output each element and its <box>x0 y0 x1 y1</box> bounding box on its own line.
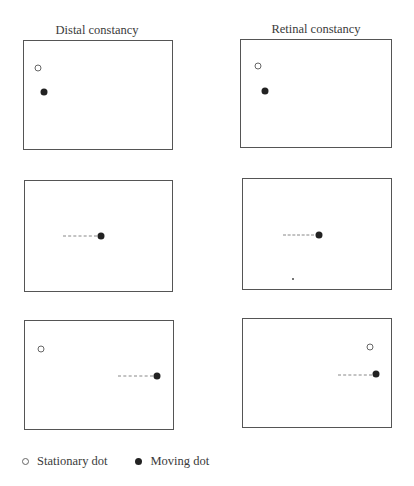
motion-trail <box>118 376 153 377</box>
moving-dot-icon <box>98 233 105 240</box>
legend-label-moving: Moving dot <box>150 454 209 469</box>
moving-dot-icon <box>154 373 161 380</box>
moving-dot-icon <box>135 458 142 465</box>
legend-item-moving: Moving dot <box>135 454 209 469</box>
motion-trail <box>283 235 314 236</box>
speck <box>292 278 294 280</box>
legend-label-stationary: Stationary dot <box>37 454 107 469</box>
moving-dot-icon <box>316 232 323 239</box>
motion-trail <box>338 375 372 376</box>
stationary-dot-icon <box>255 63 262 70</box>
moving-dot-icon <box>373 371 380 378</box>
stationary-dot-icon <box>367 344 374 351</box>
legend: Stationary dot Moving dot <box>22 454 209 469</box>
legend-item-stationary: Stationary dot <box>22 454 107 469</box>
panel-retinal-3 <box>242 318 392 428</box>
column-title-distal: Distal constancy <box>56 23 139 38</box>
column-title-retinal: Retinal constancy <box>271 22 360 37</box>
stationary-dot-icon <box>35 65 42 72</box>
moving-dot-icon <box>262 88 269 95</box>
motion-trail <box>63 236 97 237</box>
stationary-dot-icon <box>22 458 29 465</box>
stationary-dot-icon <box>38 346 45 353</box>
moving-dot-icon <box>41 89 48 96</box>
